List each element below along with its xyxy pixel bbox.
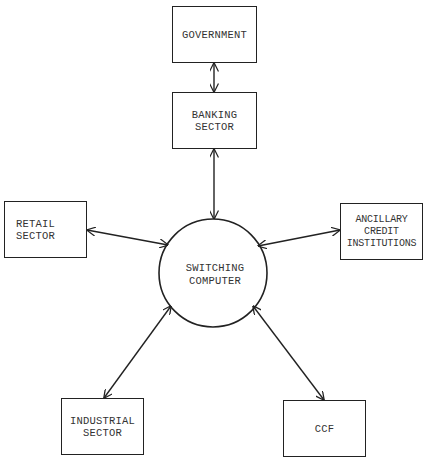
banking-sector-node: BANKING SECTOR: [172, 92, 257, 149]
retail-sector-node: RETAIL SECTOR: [4, 201, 87, 258]
edge-ccf-switching: [253, 306, 324, 400]
industrial-sector-node: INDUSTRIAL SECTOR: [61, 398, 144, 455]
government-label: GOVERNMENT: [182, 29, 247, 41]
ccf-label: CCF: [315, 423, 335, 435]
ccf-node: CCF: [283, 400, 366, 457]
edge-retail-switching: [87, 230, 168, 245]
ancillary-credit-institutions-label: ANCILLARY CREDIT INSTITUTIONS: [347, 214, 417, 250]
banking-sector-label: BANKING SECTOR: [192, 109, 238, 133]
government-node: GOVERNMENT: [172, 6, 257, 63]
edge-industrial-switching: [104, 306, 171, 398]
retail-sector-label: RETAIL SECTOR: [16, 218, 55, 242]
edge-ancillary-switching: [258, 230, 340, 246]
industrial-sector-label: INDUSTRIAL SECTOR: [70, 415, 135, 439]
ancillary-credit-institutions-node: ANCILLARY CREDIT INSTITUTIONS: [340, 203, 423, 260]
switching-computer-label: SWITCHING COMPUTER: [163, 262, 267, 288]
